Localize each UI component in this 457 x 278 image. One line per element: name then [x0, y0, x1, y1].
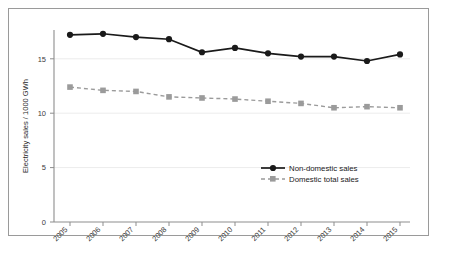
data-point [133, 89, 139, 95]
legend-marker-square [270, 176, 276, 182]
data-point [364, 104, 370, 110]
chart-legend: Non-domestic sales Domestic total sales [261, 164, 359, 184]
y-axis-title: Electricity sales / 1000 GWh [21, 79, 30, 173]
data-point [298, 54, 304, 60]
series-domestic-total-sales [67, 84, 403, 110]
data-point [133, 34, 139, 40]
data-point [265, 98, 271, 104]
data-point [166, 94, 172, 100]
data-point [199, 49, 205, 55]
data-point [265, 50, 271, 56]
data-point [232, 96, 238, 102]
data-point [331, 54, 337, 60]
line-chart: 15 10 5 0 Electricity sales / 1000 GWh 2… [0, 0, 457, 278]
gridlines [54, 59, 410, 168]
chart-figure: 15 10 5 0 Electricity sales / 1000 GWh 2… [0, 0, 457, 278]
x-tick-label-2010: 2010 [216, 225, 234, 243]
data-point [67, 32, 73, 38]
x-tick-label-2011: 2011 [250, 225, 268, 243]
data-point [199, 95, 205, 101]
legend-marker-circle [270, 165, 276, 171]
y-tick-label-0: 0 [42, 218, 46, 227]
y-tick-label-10: 10 [38, 109, 46, 118]
x-tick-label-2005: 2005 [51, 225, 69, 243]
x-tick-label-2009: 2009 [183, 225, 201, 243]
x-tick-label-2006: 2006 [84, 225, 102, 243]
data-point [232, 45, 238, 51]
x-tick-label-2015: 2015 [381, 225, 399, 243]
x-tick-label-2007: 2007 [117, 225, 135, 243]
x-axis-ticks: 2005 2006 2007 2008 2009 2010 2011 2012 … [51, 222, 400, 243]
x-tick-label-2013: 2013 [315, 225, 333, 243]
data-series-layer [67, 31, 403, 111]
x-tick-label-2014: 2014 [348, 225, 366, 243]
data-point [397, 51, 403, 57]
data-point [298, 101, 304, 107]
x-tick-label-2012: 2012 [282, 225, 300, 243]
y-axis-ticks: 15 10 5 0 [38, 55, 54, 227]
legend-item-non-domestic-sales: Non-domestic sales [261, 164, 358, 173]
data-point [100, 88, 106, 94]
y-tick-label-5: 5 [42, 163, 46, 172]
data-point [67, 84, 73, 90]
data-point [166, 36, 172, 42]
x-tick-label-2008: 2008 [150, 225, 168, 243]
data-point [364, 58, 370, 64]
legend-label-non-domestic-sales: Non-domestic sales [289, 164, 358, 173]
legend-label-domestic-total-sales: Domestic total sales [289, 175, 359, 184]
legend-item-domestic-total-sales: Domestic total sales [261, 175, 359, 184]
data-point [331, 105, 337, 111]
data-point [397, 105, 403, 111]
y-tick-label-15: 15 [38, 55, 46, 64]
data-point [100, 31, 106, 37]
